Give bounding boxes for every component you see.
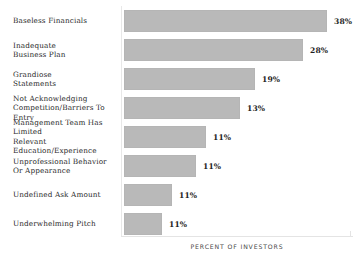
bar-value-label: 11% [169,220,187,229]
bar-fill [124,155,196,177]
bar-row: Baseless Financials38% [0,8,358,34]
bar-row: Not Acknowledging Competition/Barriers T… [0,95,358,121]
category-label: Baseless Financials [13,16,117,25]
bar-fill [124,97,240,119]
x-axis-title: PERCENT OF INVESTORS [121,243,353,250]
bar [124,126,206,148]
bar-chart: Baseless Financials38%Inadequate Busines… [0,0,358,257]
bar-row: Inadequate Business Plan28% [0,37,358,63]
bar-row: Management Team Has Limited Relevant Edu… [0,124,358,150]
bar-value-label: 11% [179,191,197,200]
bar-fill [124,68,255,90]
bar-fill [124,126,206,148]
bar-value-label: 19% [262,75,280,84]
bar-row: Underwhelming Pitch11% [0,211,358,237]
bar-value-label: 11% [213,133,231,142]
bar-row: Undefined Ask Amount11% [0,182,358,208]
bar-value-label: 28% [310,46,328,55]
chart-plot-area: Baseless Financials38%Inadequate Busines… [0,0,358,236]
bar [124,213,162,235]
bar-row: Grandiose Statements19% [0,66,358,92]
category-label: Inadequate Business Plan [13,41,117,60]
category-label: Grandiose Statements [13,70,117,89]
bar [124,68,255,90]
bar-fill [124,184,172,206]
bar-row: Unprofessional Behavior Or Appearance11% [0,153,358,179]
bar [124,184,172,206]
category-label: Unprofessional Behavior Or Appearance [13,157,117,176]
bar [124,155,196,177]
bar-fill [124,213,162,235]
bar-value-label: 11% [203,162,221,171]
bar-fill [124,10,327,32]
category-label: Undefined Ask Amount [13,190,117,199]
bar [124,97,240,119]
bar [124,39,303,61]
category-label: Management Team Has Limited Relevant Edu… [13,118,117,156]
bar-fill [124,39,303,61]
category-label: Underwhelming Pitch [13,219,117,228]
bar-value-label: 13% [247,104,265,113]
bar-value-label: 38% [334,17,352,26]
bar [124,10,327,32]
